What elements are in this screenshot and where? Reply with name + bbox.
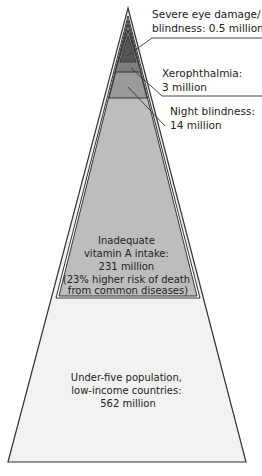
label-night-blindness: Night blindness: 14 million — [170, 105, 258, 131]
label-xerophthalmia-line1: Xerophthalmia: — [162, 67, 242, 79]
label-xerophthalmia-line2: 3 million — [162, 81, 207, 93]
label-xerophthalmia: Xerophthalmia: 3 million — [162, 67, 246, 93]
label-night-blindness-line2: 14 million — [170, 119, 222, 131]
label-under-five-line3: 562 million — [100, 398, 156, 409]
label-inadequate-line2: vitamin A intake: — [84, 248, 169, 259]
label-severe-line1: Severe eye damage/ — [152, 8, 261, 20]
label-under-five-line2: low-income countries: — [71, 385, 181, 396]
leader-line-severe — [127, 38, 262, 56]
pyramid-diagram: Severe eye damage/ blindness: 0.5 millio… — [0, 0, 262, 476]
label-inadequate-line5: from common diseases) — [68, 285, 188, 296]
label-inadequate-line1: Inadequate — [98, 235, 155, 246]
label-inadequate-line4: (23% higher risk of death — [63, 274, 190, 285]
label-inadequate-line3: 231 million — [99, 261, 155, 272]
label-under-five-line1: Under-five population, — [71, 372, 182, 383]
label-night-blindness-line1: Night blindness: — [170, 105, 255, 117]
label-severe-line2: blindness: 0.5 million — [152, 22, 262, 34]
label-severe: Severe eye damage/ blindness: 0.5 millio… — [152, 8, 262, 34]
